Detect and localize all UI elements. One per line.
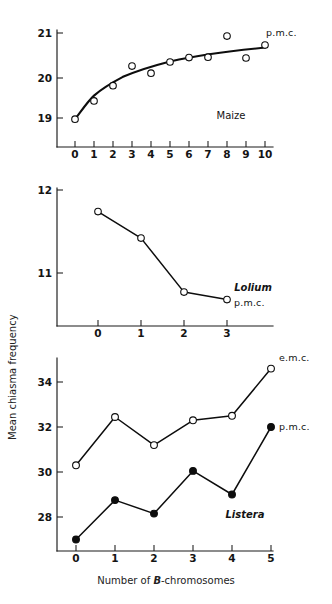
- lolium-x-ticks: [98, 320, 227, 326]
- listera-ytick-30: 30: [37, 466, 52, 478]
- listera-pmc-point-0: [73, 536, 80, 543]
- maize-xtick-5: 5: [166, 148, 173, 160]
- lolium-y-ticks: [57, 190, 63, 273]
- listera-ytick-32: 32: [37, 421, 52, 433]
- listera-xtick-2: 2: [150, 552, 157, 564]
- listera-pmc-point-1: [112, 497, 119, 504]
- lolium-xtick-0: 0: [94, 327, 101, 339]
- listera-emc-point-4: [229, 412, 236, 419]
- lolium-species-label: Lolium: [234, 282, 272, 293]
- lolium-xtick-2: 2: [180, 327, 187, 339]
- maize-x-ticks: [75, 141, 265, 147]
- listera-xtick-4: 4: [228, 552, 235, 564]
- maize-point-8: [224, 33, 231, 40]
- maize-xtick-1: 1: [90, 148, 97, 160]
- maize-xtick-8: 8: [223, 148, 230, 160]
- lolium-series-line: [98, 212, 227, 300]
- listera-pmc-point-2: [151, 510, 158, 517]
- maize-species-label: Maize: [217, 110, 246, 121]
- maize-point-10: [262, 42, 269, 49]
- x-axis-title-prefix: Number of: [97, 575, 153, 586]
- maize-xtick-2: 2: [109, 148, 116, 160]
- maize-point-5: [167, 59, 174, 66]
- lolium-xtick-3: 3: [223, 327, 230, 339]
- listera-pmc-point-5: [268, 424, 275, 431]
- maize-xtick-10: 10: [258, 148, 273, 160]
- listera-emc-point-0: [73, 462, 80, 469]
- panel-listera: 34 32 30 28 0 1 2 3 4 5: [37, 352, 309, 564]
- listera-emc-point-3: [190, 417, 197, 424]
- y-axis-title: Mean chiasma frequency: [7, 314, 18, 440]
- lolium-point-0: [95, 208, 102, 215]
- lolium-point-1: [138, 235, 145, 242]
- x-axis-title-italic: B: [153, 575, 161, 586]
- maize-point-7: [205, 54, 212, 61]
- maize-ytick-21: 21: [37, 27, 52, 39]
- listera-emc-line: [76, 369, 271, 466]
- lolium-point-3: [224, 296, 231, 303]
- maize-xtick-3: 3: [128, 148, 135, 160]
- listera-y-ticks: [57, 382, 63, 517]
- maize-point-0: [72, 116, 79, 123]
- listera-pmc-point-3: [190, 468, 197, 475]
- maize-xtick-6: 6: [185, 148, 192, 160]
- multi-panel-chart: Mean chiasma frequency 21 20 19: [0, 0, 332, 604]
- listera-emc-points: [73, 365, 275, 468]
- listera-xtick-0: 0: [72, 552, 79, 564]
- maize-point-2: [110, 82, 117, 89]
- maize-point-3: [129, 63, 136, 70]
- maize-y-ticks: [57, 33, 63, 118]
- maize-xtick-9: 9: [242, 148, 249, 160]
- listera-pmc-point-4: [229, 491, 236, 498]
- listera-xtick-5: 5: [267, 552, 274, 564]
- listera-emc-point-2: [151, 442, 158, 449]
- maize-ytick-19: 19: [37, 112, 52, 124]
- maize-point-6: [186, 54, 193, 61]
- maize-point-4: [148, 70, 155, 77]
- listera-ytick-28: 28: [37, 511, 52, 523]
- lolium-xtick-1: 1: [137, 327, 144, 339]
- lolium-point-2: [181, 289, 188, 296]
- lolium-ytick-11: 11: [37, 267, 52, 279]
- lolium-ytick-12: 12: [37, 184, 52, 196]
- listera-series-label-emc: e.m.c.: [279, 352, 310, 363]
- figure-container: Mean chiasma frequency 21 20 19: [0, 0, 332, 604]
- listera-ytick-34: 34: [37, 376, 52, 388]
- listera-emc-point-5: [268, 365, 275, 372]
- maize-point-9: [243, 55, 250, 62]
- listera-series-label-pmc: p.m.c.: [279, 421, 310, 432]
- maize-ytick-20: 20: [37, 72, 52, 84]
- x-axis-title-suffix: -chromosomes: [161, 575, 235, 586]
- maize-series-label-pmc: p.m.c.: [266, 27, 297, 38]
- panel-maize: 21 20 19 0 1 2 3 4 5 6: [37, 27, 296, 160]
- maize-xtick-0: 0: [71, 148, 78, 160]
- x-axis-title: Number of B-chromosomes: [97, 575, 235, 586]
- listera-species-label: Listera: [226, 509, 265, 520]
- listera-emc-point-1: [112, 414, 119, 421]
- lolium-series-label-pmc: p.m.c.: [234, 297, 265, 308]
- listera-xtick-3: 3: [189, 552, 196, 564]
- listera-pmc-points: [73, 424, 275, 543]
- listera-xtick-1: 1: [111, 552, 118, 564]
- listera-pmc-line: [76, 427, 271, 540]
- maize-point-1: [91, 98, 98, 105]
- maize-xtick-4: 4: [147, 148, 154, 160]
- maize-xtick-7: 7: [204, 148, 211, 160]
- panel-lolium: 12 11 0 1 2 3 Lolium p.m.c.: [37, 184, 273, 339]
- listera-x-ticks: [76, 545, 271, 551]
